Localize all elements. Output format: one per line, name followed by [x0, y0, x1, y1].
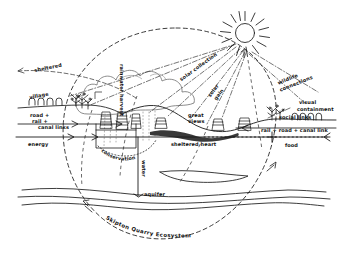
- label-road-rail-canal-line3: canal links: [38, 125, 69, 131]
- rainfall-lines: [104, 111, 155, 146]
- label-sheltered-heart: sheltered heart: [171, 142, 216, 148]
- conservation-label-curved: conservation: [100, 148, 136, 162]
- label-rail-road-canal-link: rail + road + canal link: [261, 128, 328, 134]
- label-energy: energy: [28, 142, 48, 148]
- label-rainwater-harvest: rainwater harvest: [118, 64, 124, 116]
- label-great-views-line2: views: [188, 119, 204, 125]
- cloud-icon: [76, 70, 195, 114]
- diagram-canvas: Skipton Quarry Ecosystem conservation sh…: [0, 0, 352, 262]
- diagram-title-curved: Skipton Quarry Ecosystem: [105, 214, 191, 239]
- aquifer-layers: [18, 171, 330, 210]
- label-water: water: [140, 160, 146, 177]
- label-social-links: social links: [279, 115, 311, 121]
- label-food: food: [285, 143, 298, 149]
- label-visual-containment-line2: containment: [297, 107, 334, 113]
- label-aquifer: aquifer: [144, 192, 165, 198]
- label-visual-containment-line1: visual: [299, 100, 316, 106]
